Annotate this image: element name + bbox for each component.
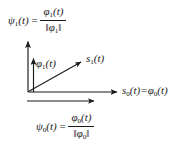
equation-psi1-relation: = (32, 14, 38, 26)
equation-psi1-denominator: ‖φ1‖ (40, 20, 66, 35)
equation-psi0-lhs-symbol: ψ (36, 120, 43, 132)
label-s0-arg2: (t) (157, 84, 167, 96)
label-phi1-arg: (t) (46, 57, 56, 69)
label-s1-arg: (t) (94, 52, 104, 64)
equation-psi0-numerator: φ0(t) (68, 112, 94, 126)
figure-canvas: ψ1(t) = φ1(t) ‖φ1‖ ψ0(t) = φ0(t) ‖φ0‖ φ1… (0, 0, 184, 147)
equation-psi1-lhs-arg: (t) (18, 14, 28, 26)
equation-psi1-lhs-symbol: ψ (8, 14, 15, 26)
equation-psi1-denominator-close: ‖ (58, 21, 61, 33)
equation-psi0: ψ0(t) = φ0(t) ‖φ0‖ (36, 113, 94, 142)
label-s0-relation: = (140, 84, 147, 96)
label-s0-axis: s0(t)=φ0(t) (122, 85, 168, 98)
label-s0-arg: (t) (130, 84, 140, 96)
equation-psi1-numerator-arg: (t) (53, 5, 63, 17)
equation-psi1-fraction: φ1(t) ‖φ1‖ (40, 6, 66, 35)
label-phi1: φ1(t) (36, 58, 56, 71)
equation-psi0-numerator-arg: (t) (81, 111, 91, 123)
equation-psi1: ψ1(t) = φ1(t) ‖φ1‖ (8, 7, 66, 36)
equation-psi1-numerator: φ1(t) (40, 6, 66, 20)
label-s1: s1(t) (86, 53, 104, 66)
equation-psi0-fraction: φ0(t) ‖φ0‖ (68, 112, 94, 141)
equation-psi0-relation: = (60, 120, 66, 132)
equation-psi0-denominator: ‖φ0‖ (68, 126, 94, 141)
equation-psi0-lhs-arg: (t) (46, 120, 56, 132)
equation-psi0-denominator-close: ‖ (86, 127, 89, 139)
